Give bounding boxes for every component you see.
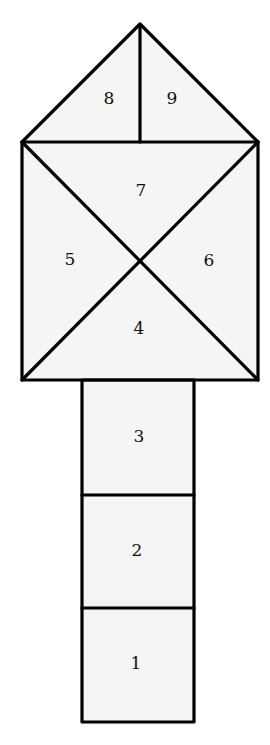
cell-label-6: 6: [204, 250, 215, 270]
cell-label-4: 4: [134, 318, 145, 338]
diagram-svg: 8 9 7 5 6 4 3 2 1: [0, 0, 270, 745]
cell-label-3: 3: [134, 426, 145, 446]
cell-label-9: 9: [167, 88, 178, 108]
hopscotch-diagram: 8 9 7 5 6 4 3 2 1: [0, 0, 270, 745]
cell-label-5: 5: [65, 249, 76, 269]
cell-label-1: 1: [131, 653, 142, 673]
cell-label-8: 8: [104, 88, 115, 108]
cell-label-2: 2: [132, 540, 143, 560]
cell-label-7: 7: [136, 180, 147, 200]
